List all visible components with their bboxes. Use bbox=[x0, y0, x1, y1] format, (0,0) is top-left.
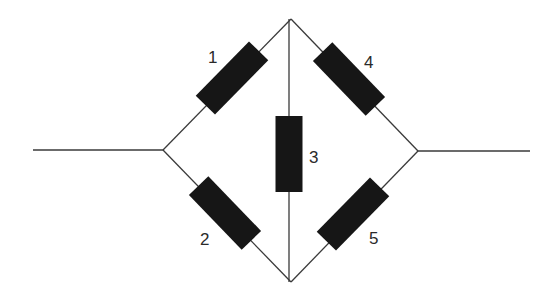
resistor-label-5: 5 bbox=[369, 229, 378, 248]
bridge-circuit-diagram: 12345 bbox=[0, 0, 560, 293]
resistor-label-2: 2 bbox=[200, 230, 209, 249]
resistor-label-1: 1 bbox=[208, 48, 217, 67]
resistor-3 bbox=[276, 116, 303, 192]
resistor-4 bbox=[313, 42, 385, 115]
resistor-label-4: 4 bbox=[364, 53, 373, 72]
resistor-label-3: 3 bbox=[309, 148, 318, 167]
resistor-1 bbox=[196, 41, 269, 114]
